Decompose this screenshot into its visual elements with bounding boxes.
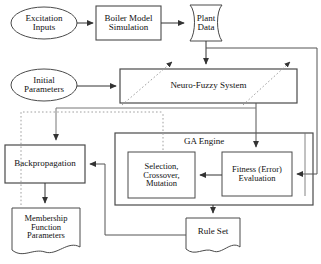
label-ga-engine: GA Engine — [184, 136, 224, 146]
diagram-vector-layer — [0, 0, 321, 264]
node-excitation-inputs[interactable] — [11, 7, 77, 39]
node-selection-crossover-mutation[interactable] — [128, 152, 195, 198]
node-plant-data[interactable] — [190, 5, 222, 41]
node-backpropagation[interactable] — [5, 145, 85, 183]
node-membership-function-parameters[interactable] — [12, 208, 80, 254]
node-neuro-fuzzy-system[interactable] — [120, 69, 297, 103]
diagram-canvas: Excitation Inputs Boiler Model Simulatio… — [0, 0, 321, 264]
node-initial-parameters[interactable] — [11, 69, 77, 101]
node-boiler-model-simulation[interactable] — [96, 6, 161, 40]
node-fitness-error-evaluation[interactable] — [222, 152, 292, 196]
node-rule-set[interactable] — [186, 218, 240, 252]
